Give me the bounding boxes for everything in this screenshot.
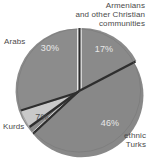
pie-label-ethnic-turks-line2: Turks xyxy=(124,140,146,149)
pie-label-arabs: Arabs xyxy=(4,37,25,46)
pie-label-armenians-line1: Armenians xyxy=(76,1,146,10)
pie-label-ethnic-turks: ethnic Turks xyxy=(124,131,146,149)
slice-value-arabs: 30% xyxy=(41,43,60,53)
pie-label-kurds: Kurds xyxy=(3,122,24,131)
slice-value-armenians: 17% xyxy=(95,44,114,54)
slice-value-ethnic-turks: 46% xyxy=(101,118,120,128)
slice-value-kurds: 7% xyxy=(35,112,48,122)
pie-label-ethnic-turks-line1: ethnic xyxy=(124,131,146,140)
pie-chart-figure: 17% 30% 7% 46% Armenians and other Chris… xyxy=(0,0,150,160)
pie-label-armenians-line3: communities xyxy=(76,19,146,28)
pie-label-armenians-line2: and other Christian xyxy=(76,10,146,19)
pie-label-armenians: Armenians and other Christian communitie… xyxy=(76,1,146,28)
